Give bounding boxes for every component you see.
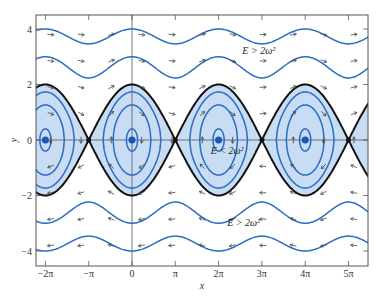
y-tick-label: 4 xyxy=(27,24,32,35)
x-tick-label: 2π xyxy=(214,268,224,279)
direction-arrow-icon xyxy=(47,33,54,36)
direction-arrow-icon xyxy=(199,86,205,89)
direction-arrow-icon xyxy=(169,33,176,36)
direction-arrow-icon xyxy=(78,191,84,194)
x-tick-label: −π xyxy=(83,268,94,279)
direction-arrow-icon xyxy=(260,165,267,168)
stable-center-point xyxy=(42,137,49,144)
direction-arrow-icon xyxy=(78,86,84,89)
phase-portrait-figure: −2π−π0π2π3π4π5π420−2−4 E > 2ω²E < 2ω²E >… xyxy=(0,0,383,296)
direction-arrow-icon xyxy=(351,33,357,36)
direction-arrow-icon xyxy=(351,217,357,220)
energy-label-lower: E > 2ω² xyxy=(226,217,261,228)
direction-arrow-icon xyxy=(260,33,267,36)
direction-arrow-icon xyxy=(260,191,267,194)
direction-arrow-icon xyxy=(351,86,357,89)
stable-center-point xyxy=(129,137,136,144)
direction-arrow-icon xyxy=(169,86,176,89)
x-tick-label: π xyxy=(173,268,178,279)
direction-arrow-icon xyxy=(78,33,84,36)
stable-center-point xyxy=(302,137,309,144)
direction-arrow-icon xyxy=(169,112,175,115)
direction-arrow-icon xyxy=(351,59,357,62)
direction-arrow-icon xyxy=(351,165,357,168)
direction-arrow-icon xyxy=(108,191,114,194)
direction-arrow-icon xyxy=(138,244,145,247)
direction-arrow-icon xyxy=(108,217,114,220)
direction-arrow-icon xyxy=(230,191,236,194)
y-tick-label: 0 xyxy=(27,135,32,146)
y-tick-label: −4 xyxy=(21,246,32,257)
y-tick-label: −2 xyxy=(21,190,32,201)
direction-arrow-icon xyxy=(260,217,267,220)
direction-arrow-icon xyxy=(260,86,267,89)
direction-arrow-icon xyxy=(260,112,267,115)
direction-arrow-icon xyxy=(321,86,327,89)
direction-arrow-icon xyxy=(260,59,267,62)
y-axis-label: y xyxy=(8,137,19,143)
direction-arrow-icon xyxy=(48,59,54,62)
saddle-point xyxy=(259,138,264,143)
direction-arrow-icon xyxy=(78,165,84,168)
direction-arrow-icon xyxy=(290,244,296,247)
direction-arrow-icon xyxy=(108,59,114,62)
open-orbit xyxy=(33,29,373,44)
direction-arrow-icon xyxy=(169,59,176,62)
direction-arrow-icon xyxy=(47,244,54,247)
y-tick-label: 2 xyxy=(27,79,32,90)
saddle-point xyxy=(86,138,91,143)
x-tick-label: 3π xyxy=(257,268,267,279)
saddle-point xyxy=(173,138,178,143)
direction-arrow-icon xyxy=(78,244,84,247)
x-tick-label: 4π xyxy=(300,268,310,279)
direction-arrow-icon xyxy=(138,33,145,36)
direction-arrow-icon xyxy=(260,244,267,247)
direction-arrow-icon xyxy=(78,218,84,221)
energy-label-upper: E > 2ω² xyxy=(241,45,276,56)
direction-arrow-icon xyxy=(78,112,84,115)
direction-arrow-icon xyxy=(169,244,176,247)
stable-center-point xyxy=(215,137,222,144)
direction-arrow-icon xyxy=(169,191,176,194)
direction-arrow-icon xyxy=(321,191,327,194)
direction-arrow-icon xyxy=(78,59,84,62)
x-axis-label: x xyxy=(199,280,205,291)
direction-arrow-icon xyxy=(169,218,176,221)
saddle-point xyxy=(346,138,351,143)
x-tick-label: 0 xyxy=(130,268,135,279)
energy-label-middle: E < 2ω² xyxy=(210,145,245,156)
direction-arrow-icon xyxy=(108,86,114,89)
direction-arrow-icon xyxy=(320,244,326,247)
direction-arrow-icon xyxy=(351,191,357,194)
direction-arrow-icon xyxy=(351,244,357,247)
x-tick-label: −2π xyxy=(38,268,54,279)
x-tick-label: 5π xyxy=(343,268,353,279)
direction-arrow-icon xyxy=(290,33,296,36)
direction-arrow-icon xyxy=(48,218,54,221)
direction-arrow-icon xyxy=(199,191,205,194)
direction-arrow-icon xyxy=(169,165,175,168)
open-orbit xyxy=(33,236,373,251)
direction-arrow-icon xyxy=(351,112,357,115)
